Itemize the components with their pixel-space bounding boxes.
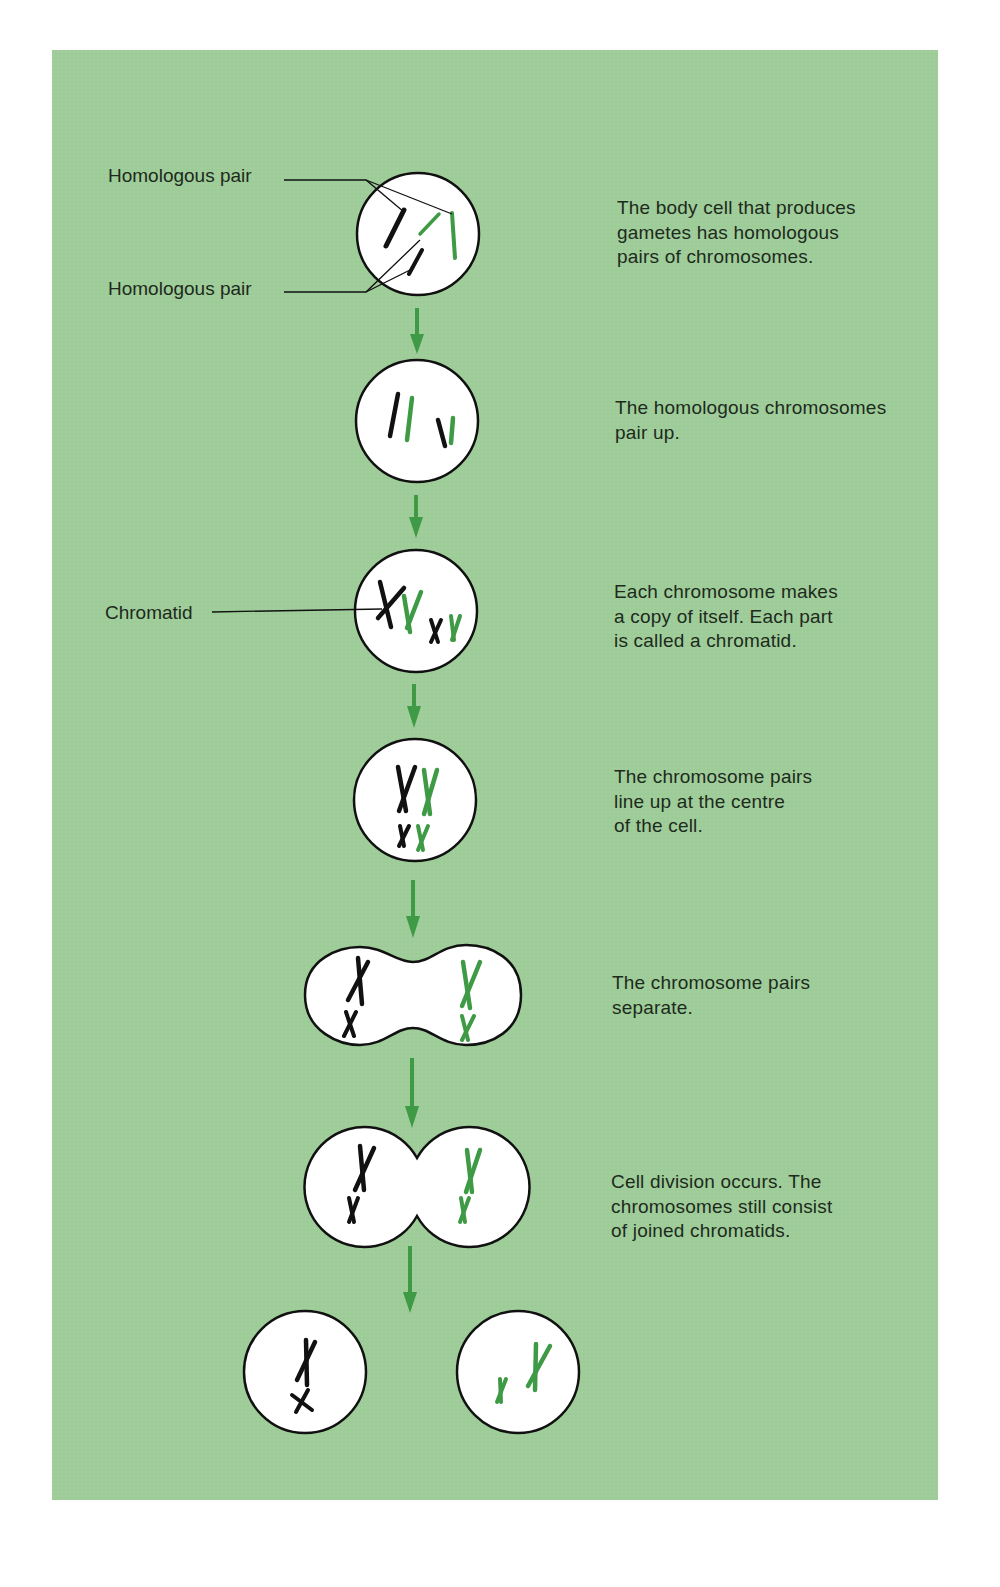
callout-homologous-pair-bottom: Homologous pair xyxy=(108,278,252,300)
cell-step-1 xyxy=(284,173,479,295)
cell-step-4 xyxy=(354,739,476,861)
step-2-description: The homologous chromosomes pair up. xyxy=(615,396,886,445)
arrow-down-icon xyxy=(409,495,423,538)
arrow-down-icon xyxy=(405,1058,419,1128)
step-3-description: Each chromosome makes a copy of itself. … xyxy=(614,580,838,654)
callout-chromatid: Chromatid xyxy=(105,602,193,624)
chromosome-green-short xyxy=(451,418,453,443)
arrow-down-icon xyxy=(406,880,420,938)
cell-step-5 xyxy=(305,945,521,1045)
cell-step-2 xyxy=(356,360,478,482)
step-1-description: The body cell that produces gametes has … xyxy=(617,196,856,270)
cell-step-6 xyxy=(304,1127,529,1247)
arrow-down-icon xyxy=(407,684,421,728)
cell-step-7 xyxy=(244,1311,579,1433)
step-6-description: Cell division occurs. The chromosomes st… xyxy=(611,1170,832,1244)
callout-homologous-pair-top: Homologous pair xyxy=(108,165,252,187)
arrow-down-icon xyxy=(403,1246,417,1313)
step-4-description: The chromosome pairs line up at the cent… xyxy=(614,765,812,839)
arrow-down-icon xyxy=(410,308,424,354)
step-5-description: The chromosome pairs separate. xyxy=(612,971,810,1020)
cell-step-3 xyxy=(212,550,477,672)
